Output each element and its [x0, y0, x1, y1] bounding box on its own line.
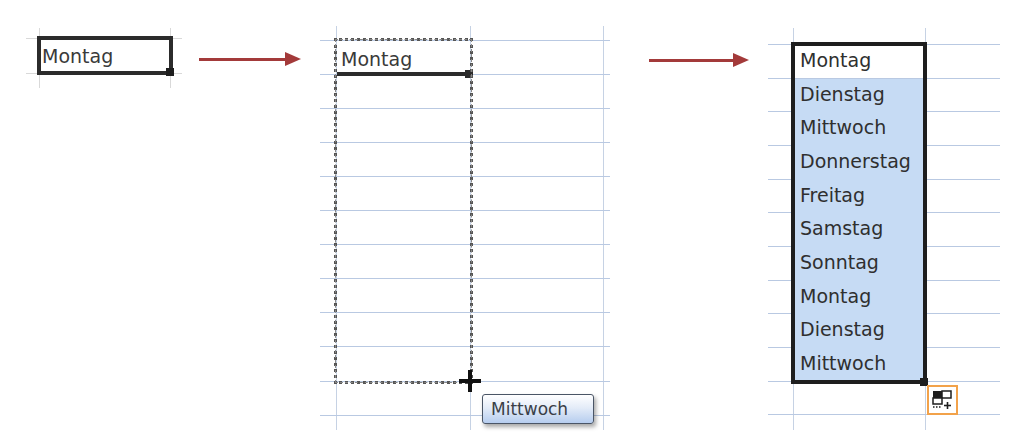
autofill-options-button[interactable]	[927, 385, 958, 415]
fill-cursor-crosshair-icon	[459, 370, 481, 392]
fill-handle[interactable]	[166, 68, 174, 76]
gridline	[768, 414, 1000, 415]
filled-range-selection	[791, 42, 927, 384]
autofill-options-icon	[929, 387, 956, 413]
arrow-right-icon	[199, 58, 287, 61]
fill-range-marquee	[334, 38, 473, 384]
fill-preview-tooltip: Mittwoch	[482, 394, 594, 424]
arrow-right-icon	[649, 59, 735, 62]
cell-value: Montag	[42, 47, 113, 66]
gridline	[603, 26, 604, 430]
